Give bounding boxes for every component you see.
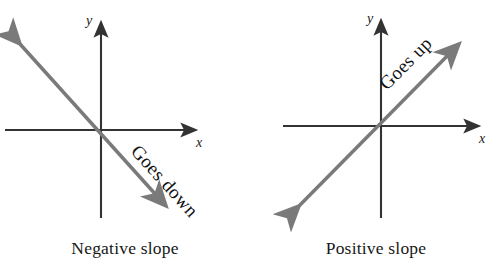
slope-figure: y x Goes down Negative slope	[0, 0, 501, 267]
panel-positive-slope: y x Goes up Positive slope	[251, 0, 501, 267]
annotation-goes-down: Goes down	[127, 141, 203, 222]
negative-slope-line	[20, 44, 166, 206]
caption-negative-slope: Negative slope	[0, 236, 250, 260]
y-axis-label-positive: y	[365, 11, 374, 26]
negative-slope-plot: y x Goes down	[0, 0, 250, 232]
panel-negative-slope: y x Goes down Negative slope	[0, 0, 250, 267]
caption-positive-slope: Positive slope	[251, 236, 501, 260]
annotation-goes-up: Goes up	[375, 32, 436, 93]
positive-slope-plot: y x Goes up	[251, 0, 501, 232]
x-axis-label-positive: x	[478, 131, 486, 146]
y-axis-label-negative: y	[84, 13, 93, 28]
x-axis-label-negative: x	[195, 135, 203, 150]
